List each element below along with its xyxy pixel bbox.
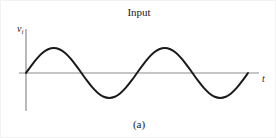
x-axis-label: t <box>262 74 265 84</box>
y-axis-label: vi <box>17 24 23 36</box>
input-waveform-figure: Input vi t (a) <box>0 0 276 138</box>
figure-caption: (a) <box>1 119 276 130</box>
y-axis-label-subscript: i <box>21 28 23 36</box>
